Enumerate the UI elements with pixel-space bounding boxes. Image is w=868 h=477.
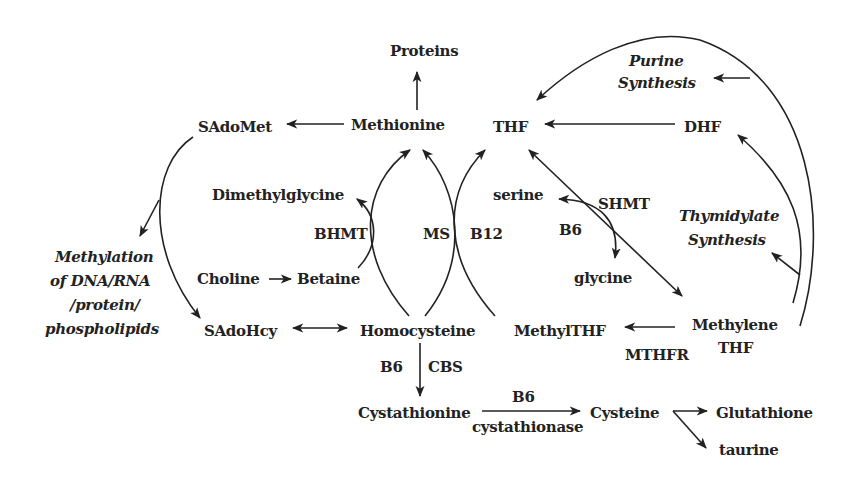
node-thf: THF — [493, 118, 529, 136]
enzyme-mthfr: MTHFR — [625, 346, 689, 364]
node-methylation-line3: /protein/ — [68, 296, 142, 314]
node-dimethylglycine: Dimethylglycine — [212, 186, 344, 204]
node-methionine: Methionine — [351, 116, 445, 134]
enzyme-bhmt: BHMT — [314, 225, 369, 243]
node-dhf: DHF — [684, 118, 722, 136]
enzyme-cystathionase: cystathionase — [472, 418, 583, 436]
node-methylation-line1: Methylation — [54, 248, 153, 266]
enzyme-shmt: SHMT — [598, 195, 651, 213]
node-serine: serine — [493, 186, 543, 204]
pathway-svg: Proteins Methionine SAdoMet THF DHF Puri… — [0, 0, 868, 477]
enzyme-ms: MS — [423, 225, 450, 243]
node-glutathione: Glutathione — [716, 404, 813, 422]
edge-sadomet-methylation — [140, 200, 159, 236]
node-betaine: Betaine — [297, 270, 360, 288]
edge-methylenethf-thymidylate — [772, 253, 800, 275]
node-thymidylate-line2: Synthesis — [688, 231, 767, 249]
node-methylation-line4: phospholipids — [45, 320, 160, 338]
node-purine-line2: Synthesis — [618, 74, 697, 92]
cofactor-b6-cystathionase: B6 — [512, 388, 535, 406]
node-sadomet: SAdoMet — [198, 118, 272, 136]
node-methylene-line1: Methylene — [692, 316, 778, 334]
node-cysteine: Cysteine — [590, 404, 659, 422]
pathway-diagram: Proteins Methionine SAdoMet THF DHF Puri… — [0, 0, 868, 477]
edge-homocysteine-methionine-left — [370, 150, 410, 316]
node-homocysteine: Homocysteine — [360, 322, 475, 340]
node-choline: Choline — [197, 270, 260, 288]
node-methylation-line2: of DNA/RNA — [50, 272, 150, 290]
edge-sadomet-sadohcy — [160, 137, 200, 318]
node-cystathionine: Cystathionine — [358, 404, 470, 422]
cofactor-b12: B12 — [470, 225, 503, 243]
node-methylthf: MethylTHF — [514, 322, 606, 340]
node-thymidylate-line1: Thymidylate — [679, 207, 779, 225]
edge-cysteine-taurine — [673, 411, 706, 448]
node-methylene-line2: THF — [718, 339, 754, 357]
enzyme-cbs: CBS — [428, 358, 463, 376]
node-taurine: taurine — [719, 441, 779, 459]
cofactor-b6-cbs: B6 — [380, 358, 403, 376]
node-sadohcy: SAdoHcy — [204, 322, 278, 340]
cofactor-b6-shmt: B6 — [559, 221, 582, 239]
node-glycine: glycine — [574, 269, 632, 287]
node-proteins: Proteins — [390, 42, 458, 60]
node-purine-line1: Purine — [628, 52, 683, 70]
